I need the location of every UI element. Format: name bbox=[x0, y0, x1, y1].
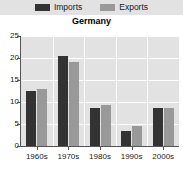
legend-item-imports: Imports bbox=[35, 3, 82, 12]
chart-title: Germany bbox=[0, 16, 183, 27]
gridline-vertical bbox=[84, 36, 85, 146]
y-axis-tick-mark bbox=[17, 146, 20, 147]
bar-exports-1960s bbox=[37, 89, 47, 146]
bar-imports-1970s bbox=[58, 56, 68, 146]
x-axis-tick-mark bbox=[163, 147, 164, 150]
x-axis-tick-mark bbox=[68, 147, 69, 150]
x-axis-tick-mark bbox=[37, 147, 38, 150]
gridline-vertical bbox=[116, 36, 117, 146]
gridline-vertical bbox=[147, 36, 148, 146]
chart-legend: Imports Exports bbox=[0, 0, 183, 15]
bar-chart: Imports Exports Germany 0510152025 1960s… bbox=[0, 0, 183, 170]
legend-item-exports: Exports bbox=[100, 3, 148, 12]
bar-imports-2000s bbox=[153, 108, 163, 146]
x-axis-tick-label: 1960s bbox=[21, 152, 53, 161]
gridline-vertical bbox=[53, 36, 54, 146]
bar-exports-1990s bbox=[132, 126, 142, 146]
gridline-horizontal bbox=[21, 36, 179, 37]
plot-area bbox=[21, 36, 179, 146]
gridline-horizontal bbox=[21, 58, 179, 59]
legend-label-exports: Exports bbox=[119, 3, 148, 12]
legend-label-imports: Imports bbox=[54, 3, 82, 12]
x-axis-tick-label: 1970s bbox=[53, 152, 85, 161]
y-axis-tick-mark bbox=[17, 80, 20, 81]
bar-exports-2000s bbox=[164, 108, 174, 146]
x-axis-tick-label: 1980s bbox=[84, 152, 116, 161]
bar-exports-1970s bbox=[69, 62, 79, 146]
x-axis-tick-label: 1990s bbox=[116, 152, 148, 161]
y-axis-tick-labels: 0510152025 bbox=[0, 0, 19, 170]
y-axis-tick-mark bbox=[17, 124, 20, 125]
y-axis-tick-mark bbox=[17, 102, 20, 103]
x-axis-tick-label: 2000s bbox=[147, 152, 179, 161]
gridline-horizontal bbox=[21, 80, 179, 81]
x-axis-tick-mark bbox=[132, 147, 133, 150]
x-axis-tick-mark bbox=[100, 147, 101, 150]
bar-imports-1990s bbox=[121, 131, 131, 146]
y-axis-tick-mark bbox=[17, 36, 20, 37]
y-axis-tick-mark bbox=[17, 58, 20, 59]
bar-imports-1980s bbox=[90, 108, 100, 146]
legend-swatch-imports bbox=[35, 4, 50, 11]
bar-exports-1980s bbox=[101, 105, 111, 146]
y-axis-line bbox=[20, 36, 21, 147]
bar-imports-1960s bbox=[26, 91, 36, 146]
legend-swatch-exports bbox=[100, 4, 115, 11]
